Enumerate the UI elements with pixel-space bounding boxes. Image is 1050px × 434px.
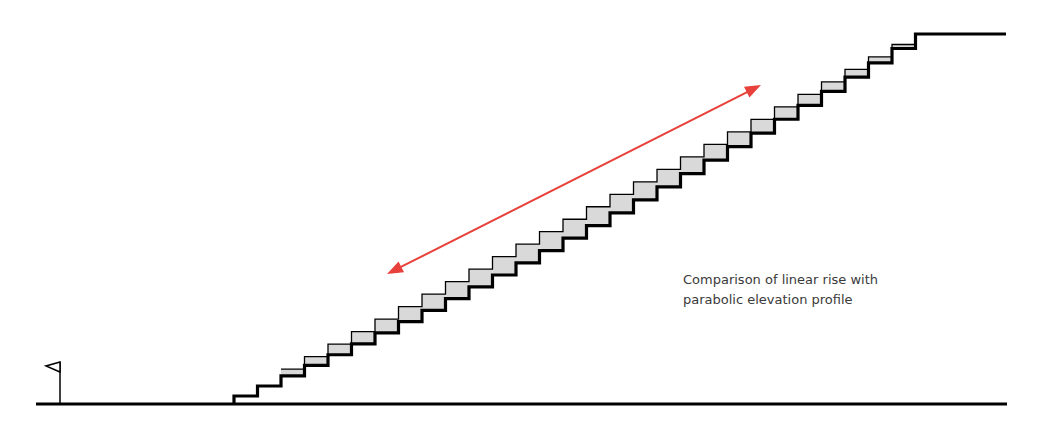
fill-segment (493, 257, 517, 275)
fill-segment (328, 344, 352, 355)
fill-segment (775, 107, 799, 119)
fill-segment (704, 144, 728, 160)
arrowhead-end-icon (744, 85, 761, 98)
fill-segment (540, 232, 564, 251)
fill-segment (352, 332, 376, 344)
fill-segment (375, 319, 399, 333)
elevation-diagram (0, 0, 1050, 434)
caption-line-2: parabolic elevation profile (683, 290, 878, 310)
flag-icon (46, 362, 60, 404)
fill-segment (728, 132, 752, 147)
fill-segment (634, 182, 658, 200)
fill-segment (798, 94, 822, 105)
fill-segment (399, 307, 423, 322)
fill-segment (610, 194, 634, 213)
diagram-caption: Comparison of linear rise with parabolic… (683, 270, 878, 310)
fill-segment (563, 219, 587, 238)
fill-segment (516, 244, 540, 263)
fill-segment (422, 294, 446, 310)
fill-segment (657, 169, 681, 186)
fill-segment (587, 207, 611, 226)
fill-segment (446, 282, 470, 299)
fill-segment (469, 269, 493, 287)
double-arrow (387, 85, 761, 274)
arrowhead-start-icon (387, 261, 404, 274)
fill-segment (681, 157, 705, 174)
fill-segment (751, 119, 775, 133)
caption-line-1: Comparison of linear rise with (683, 270, 878, 290)
